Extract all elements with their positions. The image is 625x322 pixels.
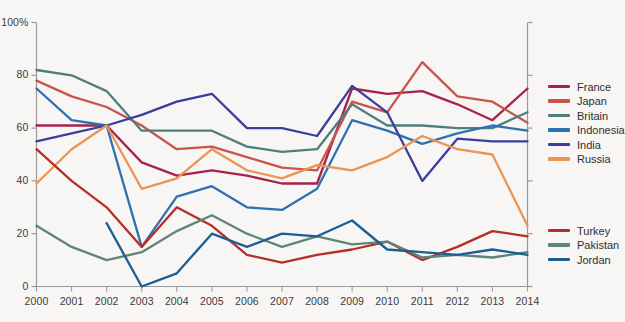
- y-axis-tick-label: 60: [0, 121, 29, 133]
- x-axis-tick-label: 2001: [52, 295, 92, 307]
- legend-item-britain[interactable]: Britain: [548, 109, 625, 122]
- legend-item-turkey[interactable]: Turkey: [548, 224, 619, 237]
- legend-label: France: [577, 81, 611, 93]
- x-axis-tick-label: 2004: [157, 295, 197, 307]
- legend-label: Jordan: [577, 254, 611, 266]
- legend-label: Russia: [577, 153, 611, 165]
- legend-label: Turkey: [577, 225, 610, 237]
- legend-swatch-icon: [548, 243, 570, 246]
- x-axis-tick-label: 2000: [17, 295, 57, 307]
- y-axis-tick-label: 20: [0, 227, 29, 239]
- x-axis-tick-label: 2013: [472, 295, 512, 307]
- legend-item-russia[interactable]: Russia: [548, 153, 625, 166]
- x-axis-tick-label: 2005: [192, 295, 232, 307]
- x-axis-tick-label: 2014: [508, 295, 548, 307]
- legend-group-secondary: TurkeyPakistanJordan: [548, 224, 619, 268]
- x-axis-tick-label: 2009: [332, 295, 372, 307]
- legend-label: Japan: [577, 95, 607, 107]
- series-line-jordan: [107, 221, 528, 287]
- legend-swatch-icon: [548, 258, 570, 261]
- legend-swatch-icon: [548, 85, 570, 88]
- x-axis-tick-label: 2003: [122, 295, 162, 307]
- legend-swatch-icon: [548, 114, 570, 117]
- legend-swatch-icon: [548, 157, 570, 160]
- x-axis-tick-label: 2012: [437, 295, 477, 307]
- legend-label: Pakistan: [577, 239, 619, 251]
- y-axis-tick-label: 40: [0, 174, 29, 186]
- legend-swatch-icon: [548, 229, 570, 232]
- legend-item-japan[interactable]: Japan: [548, 95, 625, 108]
- x-axis-tick-label: 2007: [262, 295, 302, 307]
- legend-label: India: [577, 139, 601, 151]
- series-line-pakistan: [37, 215, 528, 260]
- x-axis-tick-label: 2006: [227, 295, 267, 307]
- series-line-japan: [37, 62, 528, 170]
- legend-item-jordan[interactable]: Jordan: [548, 253, 619, 266]
- legend-item-pakistan[interactable]: Pakistan: [548, 239, 619, 252]
- legend-label: Indonesia: [577, 124, 625, 136]
- legend-swatch-icon: [548, 143, 570, 146]
- x-axis-tick-label: 2010: [367, 295, 407, 307]
- legend-item-india[interactable]: India: [548, 138, 625, 151]
- legend-swatch-icon: [548, 128, 570, 131]
- legend-group-primary: FranceJapanBritainIndonesiaIndiaRussia: [548, 80, 625, 167]
- x-axis-tick-label: 2002: [87, 295, 127, 307]
- legend-swatch-icon: [548, 99, 570, 102]
- x-axis-tick-label: 2008: [297, 295, 337, 307]
- legend-item-indonesia[interactable]: Indonesia: [548, 124, 625, 137]
- y-axis-tick-label: 0: [0, 280, 29, 292]
- y-axis-tick-label: 80: [0, 68, 29, 80]
- legend-item-france[interactable]: France: [548, 80, 625, 93]
- x-axis-tick-label: 2011: [402, 295, 442, 307]
- legend-label: Britain: [577, 110, 608, 122]
- y-axis-tick-label: 100%: [0, 16, 29, 28]
